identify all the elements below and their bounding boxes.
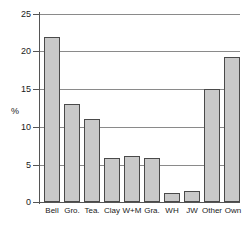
x-tick-label-own: Own	[221, 206, 245, 215]
y-tick-10	[33, 127, 39, 128]
bar-chart: 25 20 15 10 5 0 % Bell Gro. Tea. Clay W+…	[0, 0, 246, 229]
bar-jw	[184, 191, 200, 202]
bar-wh	[164, 193, 180, 202]
bar-tea	[84, 119, 100, 202]
bar-gra	[144, 158, 160, 202]
y-tick-5	[33, 165, 39, 166]
y-tick-label-5: 5	[0, 161, 31, 170]
y-tick-0	[33, 202, 39, 203]
x-axis-line	[39, 202, 240, 203]
y-tick-label-20: 20	[0, 47, 31, 56]
y-tick-20	[33, 51, 39, 52]
y-tick-label-15: 15	[0, 85, 31, 94]
gridline-20	[39, 51, 240, 52]
y-tick-label-25: 25	[0, 10, 31, 19]
bar-clay	[104, 158, 120, 202]
y-tick-25	[33, 14, 39, 15]
y-axis-title: %	[11, 106, 19, 116]
bar-other	[204, 89, 220, 202]
y-tick-label-0: 0	[0, 198, 31, 207]
y-tick-label-10: 10	[0, 123, 31, 132]
bar-own	[224, 57, 240, 202]
gridline-25	[39, 14, 240, 15]
bar-wm	[124, 156, 140, 202]
bar-gro	[64, 104, 80, 202]
bar-bell	[44, 37, 60, 202]
y-axis-line	[39, 12, 40, 204]
y-tick-15	[33, 89, 39, 90]
